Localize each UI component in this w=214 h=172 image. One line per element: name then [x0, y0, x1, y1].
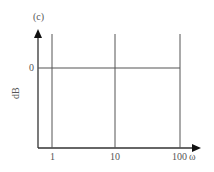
x-axis-label: ω — [189, 151, 196, 162]
y-axis-arrow-icon — [34, 29, 42, 38]
x-tick-10: 10 — [110, 151, 120, 162]
zero-label: 0 — [29, 62, 34, 73]
panel-label: (c) — [33, 11, 44, 23]
x-tick-100: 100 — [172, 151, 187, 162]
y-axis-label: dB — [10, 87, 21, 99]
x-tick-1: 1 — [50, 151, 55, 162]
bode-plot: (c) 0 dB 1 10 100 ω — [0, 0, 214, 172]
